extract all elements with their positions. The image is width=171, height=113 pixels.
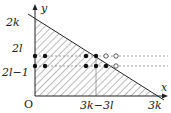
lattice-diagram: y x O 2k 2l 2l−1 3k−3l 3k — [0, 0, 171, 113]
origin-label: O — [24, 98, 33, 111]
y-axis-label: y — [40, 2, 48, 15]
tick-2l: 2l — [11, 42, 23, 55]
tick-3k-3l: 3k−3l — [80, 99, 114, 112]
y-axis-arrow-icon — [33, 4, 38, 10]
tick-2l-1: 2l−1 — [1, 66, 29, 79]
x-axis-arrow-icon — [162, 94, 168, 99]
tick-2k: 2k — [5, 16, 20, 29]
tick-3k: 3k — [148, 99, 162, 112]
x-axis-label: x — [161, 81, 168, 94]
